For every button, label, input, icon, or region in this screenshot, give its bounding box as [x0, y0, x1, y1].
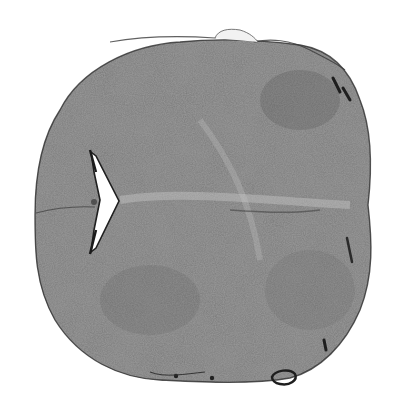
- bottom-fragment: [210, 376, 214, 380]
- tissue-body: [0, 0, 401, 414]
- tissue-section-image: [0, 0, 401, 414]
- vessel-mark: [324, 340, 326, 350]
- micrograph: [0, 0, 401, 414]
